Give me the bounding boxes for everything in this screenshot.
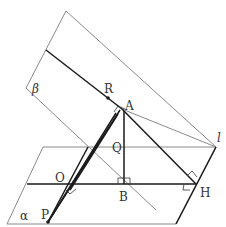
label-B: B	[119, 190, 128, 204]
point-R-dot	[106, 96, 110, 100]
label-O: O	[55, 171, 65, 185]
label-R: R	[104, 82, 114, 96]
construction-lines	[27, 50, 196, 222]
label-P: P	[41, 208, 49, 222]
label-l: l	[217, 131, 221, 145]
geometry-figure: β α l R A Q O B H P	[0, 0, 226, 227]
segment-beta-line	[46, 50, 122, 109]
label-A: A	[124, 99, 134, 113]
segment-PA2	[48, 113, 116, 222]
label-H: H	[200, 186, 210, 200]
segment-OA	[70, 114, 118, 190]
plane-alpha	[7, 147, 216, 224]
right-angle-H2	[183, 184, 190, 190]
label-alpha: α	[20, 209, 28, 223]
label-Q: Q	[112, 141, 122, 155]
label-beta: β	[31, 82, 39, 96]
